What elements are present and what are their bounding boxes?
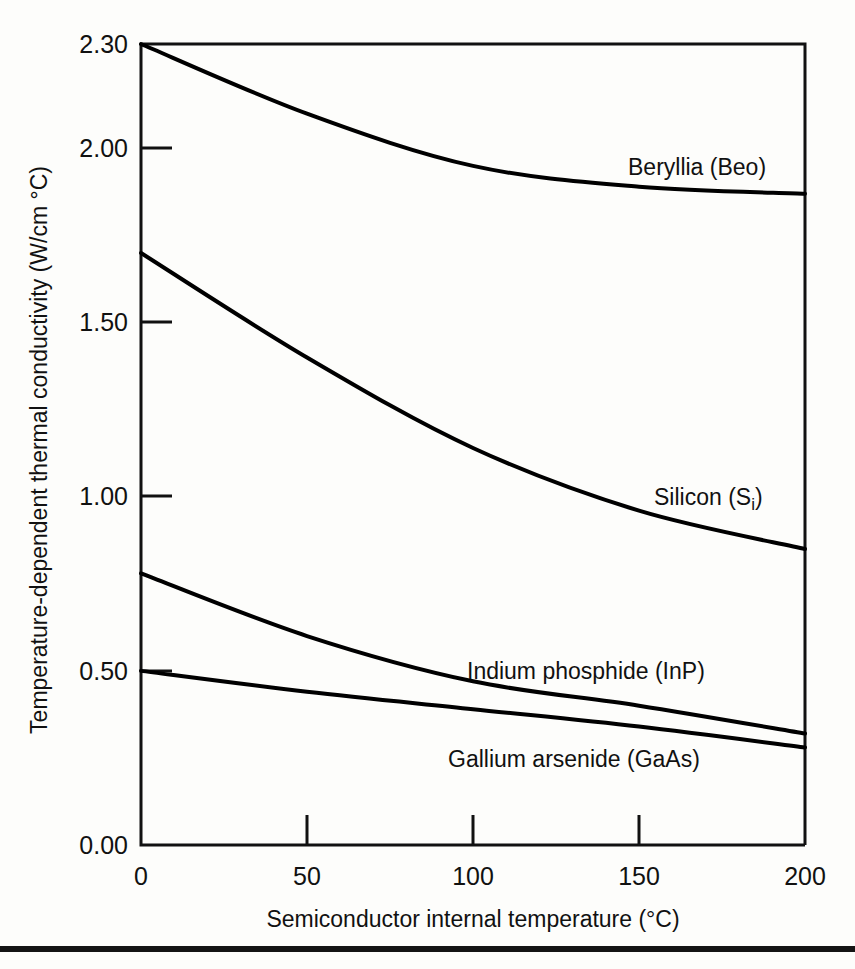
series-label-indium-phosphide: Indium phosphide (InP)	[467, 658, 705, 684]
y-tick-labels: 2.30 2.00 1.50 1.00 0.50 0.00	[79, 30, 128, 859]
series-label-gallium-arsenide: Gallium arsenide (GaAs)	[448, 746, 700, 772]
series-label-silicon: Silicon (Si)	[654, 484, 763, 514]
y-tick-label-1-50: 1.50	[79, 308, 128, 336]
x-tick-label-50: 50	[293, 862, 321, 890]
series-label-beryllia: Beryllia (Beo)	[628, 154, 766, 180]
data-series-group	[141, 44, 805, 747]
x-tick-label-100: 100	[452, 862, 494, 890]
x-tick-marks	[307, 815, 639, 845]
series-label-silicon-main: Silicon (S	[654, 484, 751, 510]
y-tick-label-2-00: 2.00	[79, 134, 128, 162]
x-axis-title: Semiconductor internal temperature (°C)	[266, 906, 679, 932]
y-tick-label-0-00: 0.00	[79, 831, 128, 859]
y-tick-label-0-50: 0.50	[79, 657, 128, 685]
figure-root: 2.30 2.00 1.50 1.00 0.50 0.00 0 50 100 1…	[0, 0, 855, 969]
y-tick-label-1-00: 1.00	[79, 482, 128, 510]
bottom-divider-rule	[0, 946, 855, 952]
x-tick-label-0: 0	[134, 862, 148, 890]
y-tick-marks	[141, 148, 172, 671]
series-label-silicon-close: )	[755, 484, 763, 510]
y-axis-title: Temperature-dependent thermal conductivi…	[26, 166, 52, 734]
series-inline-labels: Beryllia (Beo) Silicon (Si) Indium phosp…	[448, 154, 766, 772]
x-tick-labels: 0 50 100 150 200	[134, 862, 826, 890]
x-tick-label-200: 200	[784, 862, 826, 890]
x-tick-label-150: 150	[618, 862, 660, 890]
y-tick-label-2-30: 2.30	[79, 30, 128, 58]
thermal-conductivity-line-chart: 2.30 2.00 1.50 1.00 0.50 0.00 0 50 100 1…	[0, 0, 855, 946]
